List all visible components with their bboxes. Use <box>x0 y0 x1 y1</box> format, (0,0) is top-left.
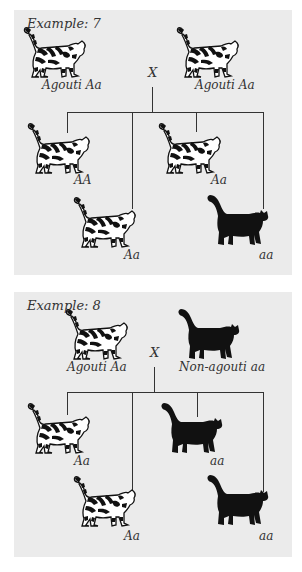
offspring-label: aa <box>259 248 273 262</box>
example-7-panel: Example: 7 Agouti Aa Agouti Aa X AA Aa A… <box>14 10 292 275</box>
offspring-label: Aa <box>74 454 90 468</box>
parent-label: Agouti Aa <box>67 360 127 374</box>
tree-line <box>154 367 155 392</box>
parent-label: Non-agouti aa <box>179 360 265 374</box>
tabby-cat-icon <box>22 24 88 80</box>
offspring-label: AA <box>74 173 91 187</box>
tabby-cat-icon <box>72 473 138 529</box>
tree-line <box>67 392 263 393</box>
tree-line <box>152 87 153 112</box>
offspring-label: aa <box>259 529 273 543</box>
black-cat-icon <box>159 400 225 456</box>
cross-symbol: X <box>150 345 159 360</box>
black-cat-icon <box>176 306 242 362</box>
cross-symbol: X <box>148 65 157 80</box>
offspring-label: Aa <box>124 529 140 543</box>
offspring-label: Aa <box>211 173 227 187</box>
black-cat-icon <box>205 192 271 248</box>
tabby-cat-icon <box>72 194 138 250</box>
tree-line <box>67 112 263 113</box>
tabby-cat-icon <box>26 400 92 456</box>
offspring-label: aa <box>210 454 224 468</box>
parent-label: Agouti Aa <box>42 78 102 92</box>
black-cat-icon <box>205 472 271 528</box>
offspring-label: Aa <box>124 248 140 262</box>
parent-label: Agouti Aa <box>195 78 255 92</box>
tabby-cat-icon <box>26 120 92 176</box>
tabby-cat-icon <box>157 120 223 176</box>
tabby-cat-icon <box>175 24 241 80</box>
tabby-cat-icon <box>64 306 130 362</box>
example-8-panel: Example: 8 Agouti Aa Non-agouti aa X Aa … <box>14 292 292 557</box>
